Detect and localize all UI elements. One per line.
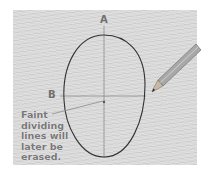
caption-line: Faint xyxy=(21,110,68,121)
caption: Faint dividing lines will later be erase… xyxy=(21,110,68,163)
label-b: B xyxy=(48,90,56,100)
label-a: A xyxy=(100,15,108,25)
caption-line: lines will xyxy=(21,131,68,142)
center-point xyxy=(103,101,105,103)
pencil-icon xyxy=(152,44,201,92)
caption-line: erased. xyxy=(21,152,68,163)
